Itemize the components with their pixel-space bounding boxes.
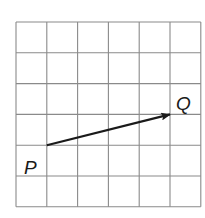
grid xyxy=(16,22,201,207)
point-q-label: Q xyxy=(176,93,191,114)
vector-grid-diagram: P Q xyxy=(0,0,205,218)
point-p-label: P xyxy=(24,157,37,178)
